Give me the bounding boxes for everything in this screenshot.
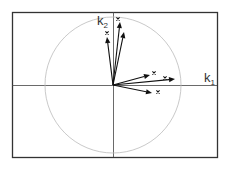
- vectors: [105, 17, 175, 94]
- arrowhead-icon: [117, 22, 122, 28]
- arrowhead-icon: [146, 89, 152, 94]
- arrowhead-icon: [144, 74, 150, 79]
- vector-6: [113, 85, 146, 92]
- vector-diagram: [0, 0, 229, 169]
- cross-marker-icon: [105, 31, 108, 34]
- cross-marker-icon: [152, 71, 155, 74]
- k1-axis-label: k1: [204, 71, 215, 87]
- vector-1: [108, 43, 113, 85]
- arrowhead-icon: [169, 77, 175, 82]
- cross-marker-icon: [116, 17, 119, 20]
- cross-marker-icon: [163, 76, 166, 79]
- cross-marker-icon: [156, 90, 159, 93]
- k2-axis-label: k2: [97, 14, 108, 30]
- arrowhead-icon: [105, 37, 110, 43]
- arrowhead-icon: [120, 32, 125, 38]
